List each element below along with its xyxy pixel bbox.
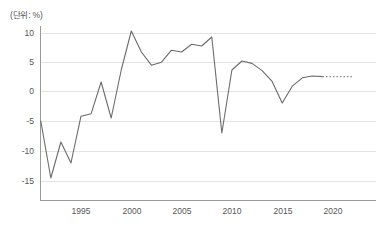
chart-plot: 10 5 0 -5 -10 -15 1995 2000 2005 2010 20…	[0, 0, 392, 241]
x-tick-label: 2005	[173, 206, 192, 216]
x-tick-label: 2020	[324, 206, 343, 216]
y-tick-label: 0	[29, 86, 34, 96]
y-tick-labels: 10 5 0 -5 -10 -15	[22, 28, 35, 186]
x-tick-label: 2010	[223, 206, 242, 216]
y-tick-label: -15	[22, 176, 35, 186]
x-tick-label: 2000	[123, 206, 142, 216]
y-tick-label: 10	[25, 28, 35, 38]
y-tick-label: 5	[29, 57, 34, 67]
gridlines	[40, 33, 376, 181]
data-line-actual	[41, 31, 323, 178]
x-tick-label: 1995	[72, 206, 91, 216]
chart-container: (단위: %) 10 5 0 -5 -10 -15 1995 2000 2005	[0, 0, 392, 241]
x-tick-labels: 1995 2000 2005 2010 2015 2020	[72, 206, 343, 216]
y-tick-label: -5	[26, 116, 34, 126]
x-tick-label: 2015	[274, 206, 293, 216]
y-tick-label: -10	[22, 146, 35, 156]
